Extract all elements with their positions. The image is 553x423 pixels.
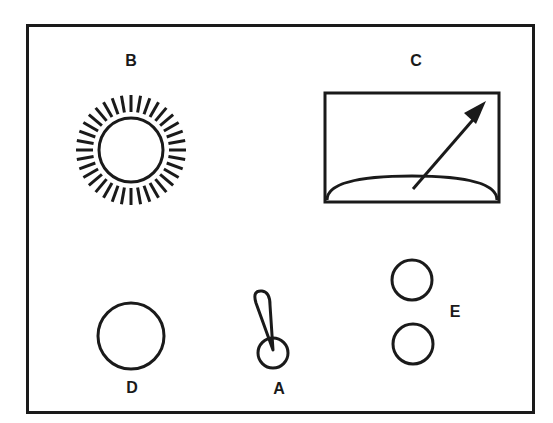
round-button-d[interactable] [97,302,165,370]
button-e-bottom[interactable] [391,322,435,366]
toggle-switch-a[interactable] [248,286,292,370]
button-e-top[interactable] [390,258,434,302]
label-e: E [450,303,461,321]
meter-gauge-c [323,91,501,204]
label-b: B [125,52,137,70]
label-c: C [410,52,422,70]
label-d: D [126,379,138,397]
indicator-light-b [76,95,186,205]
label-a: A [273,380,285,398]
